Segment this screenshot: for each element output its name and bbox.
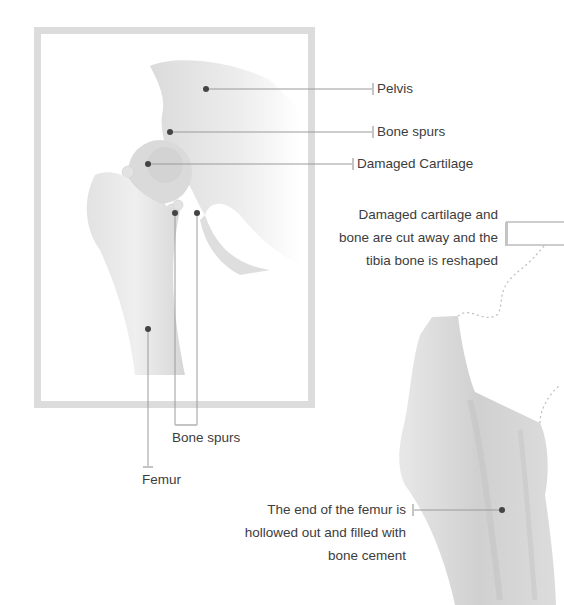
label-pelvis: Pelvis — [377, 78, 413, 100]
label-bone-spurs-upper: Bone spurs — [377, 121, 445, 143]
label-hollowed-line-1: The end of the femur is — [267, 499, 406, 521]
label-cut-away-line-3: tibia bone is reshaped — [366, 250, 498, 272]
label-hollowed-line-2: hollowed out and filled with — [245, 522, 406, 544]
label-cut-away-line-2: bone are cut away and the — [339, 227, 498, 249]
label-cut-away-line-1: Damaged cartilage and — [358, 204, 498, 226]
label-femur: Femur — [142, 469, 181, 491]
label-damaged-cartilage: Damaged Cartilage — [357, 153, 473, 175]
label-hollowed-line-3: bone cement — [328, 545, 406, 567]
femur-bone — [87, 172, 185, 375]
label-bone-spurs-lower: Bone spurs — [172, 427, 240, 449]
